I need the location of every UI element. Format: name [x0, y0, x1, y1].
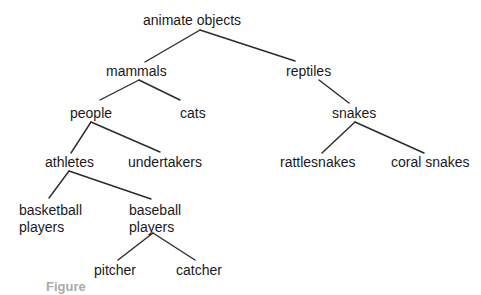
node-animate-objects: animate objects [143, 12, 241, 28]
edge-mammals-cats [139, 80, 180, 100]
node-rattlesnakes: rattlesnakes [280, 154, 355, 170]
node-undertakers: undertakers [128, 154, 202, 170]
edge-animate-objects-reptiles [200, 30, 295, 61]
edge-baseball-players-pitcher [118, 233, 153, 260]
edge-athletes-basketball-players [49, 171, 69, 198]
edge-people-undertakers [91, 122, 160, 152]
node-snakes: snakes [332, 105, 376, 121]
node-coral-snakes: coral snakes [391, 154, 470, 170]
edge-people-athletes [71, 122, 91, 153]
figure-caption: Figure [46, 279, 86, 295]
node-reptiles: reptiles [286, 63, 331, 79]
node-basketball-players: basketball players [19, 202, 82, 236]
node-baseball-players: baseball players [129, 202, 181, 236]
edge-athletes-baseball-players [69, 171, 151, 199]
edge-reptiles-snakes [319, 80, 349, 103]
node-cats: cats [180, 105, 206, 121]
edge-snakes-coral-snakes [355, 122, 424, 153]
edge-animate-objects-mammals [145, 30, 200, 62]
node-people: people [70, 105, 112, 121]
edge-baseball-players-catcher [153, 233, 195, 260]
edge-mammals-people [100, 80, 139, 100]
node-mammals: mammals [106, 63, 167, 79]
node-athletes: athletes [45, 154, 94, 170]
node-pitcher: pitcher [94, 262, 136, 278]
edge-snakes-rattlesnakes [322, 122, 355, 153]
node-catcher: catcher [176, 262, 222, 278]
